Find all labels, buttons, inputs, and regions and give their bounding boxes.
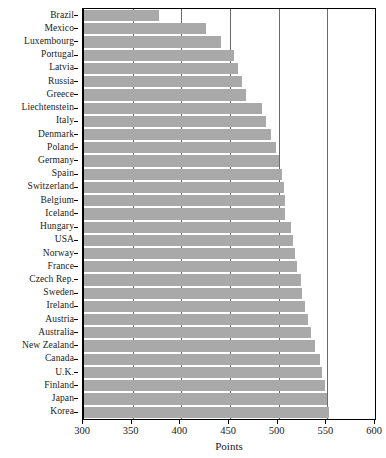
y-axis-tick bbox=[74, 121, 78, 122]
bar-norway bbox=[84, 248, 295, 259]
y-axis-label: Liechtenstein bbox=[22, 102, 74, 112]
y-axis-label: Ireland bbox=[46, 300, 74, 310]
y-axis-tick-row: Italy bbox=[0, 114, 78, 127]
bar-row bbox=[84, 181, 375, 194]
bar-row bbox=[84, 168, 375, 181]
bar-mexico bbox=[84, 23, 206, 34]
y-axis-tick-row: Canada bbox=[0, 352, 78, 365]
bar-chart: BrazilMexicoLuxembourgPortugalLatviaRuss… bbox=[0, 0, 386, 458]
y-axis-tick-row: Mexico bbox=[0, 21, 78, 34]
x-axis-tick-label: 600 bbox=[366, 425, 382, 437]
bar-row bbox=[84, 141, 375, 154]
y-axis-label: Korea bbox=[50, 406, 74, 416]
y-axis-label: Switzerland bbox=[28, 181, 74, 191]
bar-row bbox=[84, 62, 375, 75]
y-axis-tick-row: Liechtenstein bbox=[0, 101, 78, 114]
bar-italy bbox=[84, 116, 266, 127]
y-axis-label: Norway bbox=[43, 248, 74, 258]
x-axis-tick-500 bbox=[277, 420, 278, 424]
bar-new-zealand bbox=[84, 340, 315, 351]
y-axis-label: Denmark bbox=[38, 129, 74, 139]
bar-usa bbox=[84, 235, 293, 246]
x-axis: 300350400450500550600 bbox=[82, 420, 376, 440]
y-axis-tick-row: Spain bbox=[0, 167, 78, 180]
bar-belgium bbox=[84, 195, 285, 206]
x-axis-tick-label: 300 bbox=[74, 425, 90, 437]
bar-russia bbox=[84, 76, 242, 87]
bar-row bbox=[84, 22, 375, 35]
bar-row bbox=[84, 128, 375, 141]
bar-germany bbox=[84, 155, 279, 166]
y-axis-label: New Zealand bbox=[22, 340, 74, 350]
bar-liechtenstein bbox=[84, 103, 262, 114]
y-axis-tick bbox=[74, 213, 78, 214]
y-axis-label: Greece bbox=[47, 89, 75, 99]
y-axis-label: Italy bbox=[56, 115, 74, 125]
y-axis-tick bbox=[74, 240, 78, 241]
y-axis-label: Luxembourg bbox=[24, 36, 74, 46]
bar-poland bbox=[84, 142, 276, 153]
y-axis-label: Belgium bbox=[41, 195, 74, 205]
y-axis-label: Mexico bbox=[44, 23, 74, 33]
y-axis-tick bbox=[74, 55, 78, 56]
bar-brazil bbox=[84, 10, 159, 21]
y-axis-tick bbox=[74, 108, 78, 109]
y-axis-label: Hungary bbox=[40, 221, 74, 231]
y-axis-tick bbox=[74, 266, 78, 267]
y-axis-tick bbox=[74, 332, 78, 333]
x-axis-tick-label: 450 bbox=[220, 425, 236, 437]
bar-canada bbox=[84, 354, 320, 365]
bar-row bbox=[84, 102, 375, 115]
y-axis-tick bbox=[74, 412, 78, 413]
y-axis-tick bbox=[74, 200, 78, 201]
y-axis-tick-row: Ireland bbox=[0, 299, 78, 312]
bar-czech-rep- bbox=[84, 274, 301, 285]
bar-switzerland bbox=[84, 182, 284, 193]
bar-japan bbox=[84, 393, 327, 404]
bar-row bbox=[84, 234, 375, 247]
bar-row bbox=[84, 88, 375, 101]
y-axis-labels: BrazilMexicoLuxembourgPortugalLatviaRuss… bbox=[0, 8, 78, 420]
y-axis-tick-row: New Zealand bbox=[0, 338, 78, 351]
x-axis-tick-550 bbox=[325, 420, 326, 424]
bars-layer bbox=[84, 9, 375, 419]
y-axis-tick-row: Switzerland bbox=[0, 180, 78, 193]
y-axis-tick-row: Finland bbox=[0, 378, 78, 391]
y-axis-label: Sweden bbox=[43, 287, 74, 297]
bar-row bbox=[84, 154, 375, 167]
y-axis-label: Poland bbox=[47, 142, 74, 152]
y-axis-tick-row: Hungary bbox=[0, 220, 78, 233]
y-axis-tick bbox=[74, 147, 78, 148]
bar-korea bbox=[84, 407, 329, 418]
y-axis-tick-row: Greece bbox=[0, 87, 78, 100]
x-axis-tick-300 bbox=[82, 420, 83, 424]
y-axis-label: France bbox=[48, 261, 74, 271]
bar-row bbox=[84, 35, 375, 48]
y-axis-tick-row: Belgium bbox=[0, 193, 78, 206]
bar-u-k- bbox=[84, 367, 322, 378]
bar-row bbox=[84, 379, 375, 392]
y-axis-tick-row: Latvia bbox=[0, 61, 78, 74]
bar-row bbox=[84, 49, 375, 62]
x-axis-tick-450 bbox=[228, 420, 229, 424]
y-axis-label: Japan bbox=[52, 393, 74, 403]
y-axis-tick bbox=[74, 306, 78, 307]
y-axis-tick-row: Portugal bbox=[0, 48, 78, 61]
bar-row bbox=[84, 326, 375, 339]
y-axis-label: Australia bbox=[38, 327, 74, 337]
y-axis-tick bbox=[74, 372, 78, 373]
bar-row bbox=[84, 287, 375, 300]
bar-row bbox=[84, 353, 375, 366]
bar-row bbox=[84, 260, 375, 273]
y-axis-tick bbox=[74, 15, 78, 16]
y-axis-label: Brazil bbox=[50, 10, 74, 20]
y-axis-label: USA bbox=[55, 234, 74, 244]
bar-latvia bbox=[84, 63, 238, 74]
x-axis-tick-600 bbox=[374, 420, 375, 424]
plot-area bbox=[82, 8, 376, 420]
bar-luxembourg bbox=[84, 36, 221, 47]
y-axis-label: Iceland bbox=[45, 208, 74, 218]
bar-iceland bbox=[84, 208, 285, 219]
bar-sweden bbox=[84, 288, 302, 299]
y-axis-tick bbox=[74, 227, 78, 228]
